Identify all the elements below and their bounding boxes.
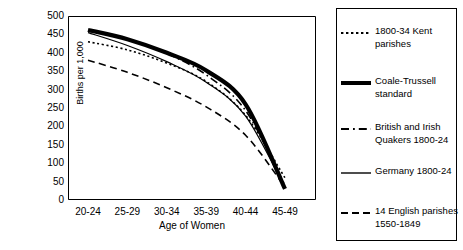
y-tick-label: 200	[34, 121, 64, 131]
y-tick-label: 50	[34, 177, 64, 187]
legend-item: 1800-34 Kent parishes	[337, 25, 458, 50]
chart-figure: Births per 1,000 05010015020025030035040…	[0, 0, 463, 250]
y-tick-label: 400	[34, 48, 64, 58]
legend-line-swatch	[341, 205, 371, 219]
y-tick-label: 0	[34, 195, 64, 205]
y-tick-label: 150	[34, 140, 64, 150]
legend-item: 14 English parishes 1550-1849	[337, 205, 458, 230]
legend-label: British and Irish Quakers 1800-24	[375, 121, 458, 146]
y-tick-label: 100	[34, 158, 64, 168]
legend-item: Coale-Trussell standard	[337, 75, 458, 100]
y-tick-label: 250	[34, 103, 64, 113]
plot-area: Births per 1,000 05010015020025030035040…	[68, 16, 316, 200]
y-tick-label: 500	[34, 11, 64, 21]
series-line-1	[88, 30, 285, 189]
chart-legend: 1800-34 Kent parishesCoale-Trussell stan…	[336, 8, 457, 241]
legend-label: 1800-34 Kent parishes	[375, 25, 458, 50]
series-line-2	[88, 31, 285, 186]
plot-svg	[68, 16, 316, 200]
legend-label: Coale-Trussell standard	[375, 75, 458, 100]
legend-line-swatch	[341, 25, 371, 39]
y-tick-label: 350	[34, 66, 64, 76]
series-group	[88, 30, 285, 189]
legend-line-swatch	[341, 121, 371, 135]
legend-line-swatch	[341, 165, 371, 179]
legend-label: Germany 1800-24	[375, 165, 452, 178]
y-tick-label: 300	[34, 85, 64, 95]
y-axis-title: Births per 1,000	[75, 13, 85, 133]
legend-item: British and Irish Quakers 1800-24	[337, 121, 458, 146]
legend-item: Germany 1800-24	[337, 165, 458, 179]
legend-label: 14 English parishes 1550-1849	[375, 205, 458, 230]
y-tick-label: 450	[34, 29, 64, 39]
x-tick-label: 45-49	[262, 206, 308, 217]
series-line-3	[88, 33, 285, 188]
legend-line-swatch	[341, 75, 371, 89]
x-axis-title: Age of Women	[68, 220, 316, 231]
